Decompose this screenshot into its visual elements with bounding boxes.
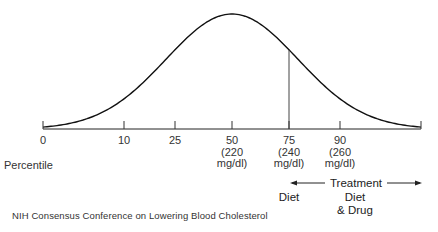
diet-label: Diet	[279, 191, 300, 203]
tick-label-90-line2: (260	[329, 146, 351, 158]
arrow-left-head-icon	[290, 181, 297, 186]
tick-label-10: 10	[118, 134, 130, 146]
tick-label-75-line3: mg/dl)	[274, 157, 305, 169]
treatment-label: Treatment	[330, 177, 383, 189]
tick-label-50-line2: (220	[221, 146, 243, 158]
diet-drug-label-line1: Diet	[345, 191, 366, 203]
source-note: NIH Consensus Conference on Lowering Blo…	[12, 210, 268, 221]
tick-label-25: 25	[169, 134, 181, 146]
tick-label-75-line2: (240	[278, 146, 300, 158]
x-axis-title: Percentile	[4, 159, 53, 171]
tick-label-75: 75	[283, 134, 295, 146]
tick-label-90: 90	[334, 134, 346, 146]
diet-drug-label-line2: & Drug	[337, 204, 373, 216]
distribution-curve	[43, 14, 421, 127]
tick-label-50-line3: mg/dl)	[217, 157, 248, 169]
arrow-right-head-icon	[415, 181, 422, 186]
distribution-chart: 0102550(220mg/dl)75(240mg/dl)90(260mg/dl…	[0, 0, 438, 232]
tick-label-90-line3: mg/dl)	[325, 157, 356, 169]
tick-label-50: 50	[226, 134, 238, 146]
tick-label-0: 0	[40, 134, 46, 146]
